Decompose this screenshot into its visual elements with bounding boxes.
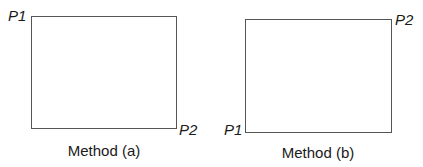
point-p1-label-b: P1 [224,122,242,138]
point-p1-label-a: P1 [8,8,26,24]
caption-method-b: Method (b) [258,144,378,161]
caption-method-a: Method (a) [44,142,164,159]
rectangle-method-b [245,19,392,133]
point-p2-label-b: P2 [395,12,413,28]
rectangle-method-a [31,16,177,129]
point-p2-label-a: P2 [179,122,197,138]
